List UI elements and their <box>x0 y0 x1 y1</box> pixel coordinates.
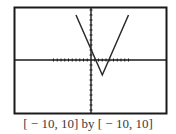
window-caption: [ − 10, 10] by [ − 10, 10] <box>0 116 176 132</box>
absolute-value-curve <box>76 15 129 75</box>
calculator-graph-screen <box>0 0 176 134</box>
